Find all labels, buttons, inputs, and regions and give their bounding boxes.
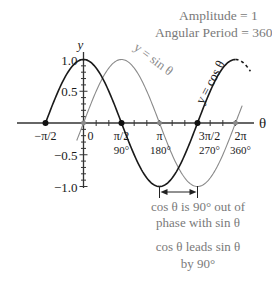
sin-zero-point (157, 121, 162, 126)
x-tick-degree-label: 180° (150, 144, 171, 156)
cos-zero-point (42, 120, 48, 126)
x-axis-label: θ (259, 115, 266, 131)
cos-curve-label: y = cos θ (192, 58, 227, 107)
x-tick-label: π (156, 129, 162, 143)
y-tick-label: 1.0 (61, 53, 77, 68)
lead-note-line2: by 90° (181, 256, 215, 271)
sin-zero-point (233, 121, 238, 126)
x-tick-label: 2π (234, 129, 246, 143)
lead-note-line1: cos θ leads sin θ (156, 239, 241, 254)
axes: θy (17, 37, 266, 188)
y-axis-label: y (76, 37, 84, 52)
y-tick-label: −1.0 (54, 180, 78, 195)
x-tick-degree-label: 270° (199, 144, 220, 156)
cos-zero-point (195, 120, 201, 126)
y-tick-label: −0.5 (54, 148, 78, 163)
x-tick-label: −π/2 (34, 129, 56, 143)
x-tick-label: 3π/2 (199, 129, 220, 143)
x-tick-label: π/2 (114, 129, 129, 143)
sin-zero-point (81, 121, 86, 126)
period-annotation: Angular Period = 360° (155, 25, 272, 40)
x-tick-degree-label: 90° (114, 144, 129, 156)
arrow-right-icon (190, 189, 197, 195)
sine-cosine-chart: θy 1.00.5−0.5−1.0−π/20π/290°π180°3π/2270… (0, 0, 272, 281)
x-tick-degree-label: 360° (230, 144, 251, 156)
arrow-left-icon (161, 189, 168, 195)
y-tick-label: 0.5 (61, 84, 77, 99)
cos-zero-point (119, 120, 125, 126)
amplitude-annotation: Amplitude = 1 (179, 8, 258, 23)
cos-curve-dashed (236, 60, 251, 72)
phase-note-line2: phase with sin θ (156, 215, 240, 230)
phase-note-line1: cos θ is 90° out of (151, 199, 246, 214)
x-tick-label: 0 (88, 129, 94, 143)
